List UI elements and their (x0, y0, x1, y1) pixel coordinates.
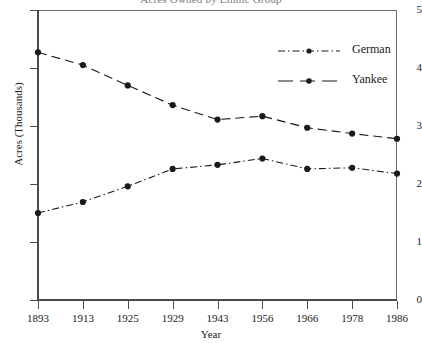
x-tick (262, 301, 263, 309)
y-tick-label: 3 (396, 120, 422, 131)
legend-line-sample-yankee (278, 74, 340, 88)
x-tick (83, 301, 84, 309)
y-tick-label: 4 (396, 62, 422, 73)
x-tick (307, 301, 308, 309)
y-tick (30, 126, 38, 127)
chart-title: Acres Owned by Ethnic Group (0, 0, 422, 5)
x-tick-label: 1966 (283, 312, 331, 324)
x-tick-label: 1943 (194, 312, 242, 324)
x-tick (173, 301, 174, 309)
x-tick (352, 301, 353, 309)
x-tick-label: 1956 (238, 312, 286, 324)
y-tick (30, 184, 38, 185)
x-tick-label: 1986 (373, 312, 421, 324)
y-tick (30, 300, 38, 301)
chart-figure: Acres Owned by Ethnic Group 012345 Acres… (0, 0, 422, 343)
legend-item-german[interactable]: German (278, 38, 398, 68)
x-tick (38, 301, 39, 309)
x-tick-label: 1929 (149, 312, 197, 324)
legend-label-german: German (352, 42, 391, 56)
x-axis-title: Year (0, 328, 422, 340)
x-tick (218, 301, 219, 309)
x-tick-label: 1978 (328, 312, 376, 324)
chart-legend: German Yankee (278, 38, 398, 98)
y-tick-label: 2 (396, 178, 422, 189)
legend-line-sample-german (278, 44, 340, 58)
y-axis-title: Acres (Thousands) (12, 44, 24, 204)
x-tick-label: 1893 (14, 312, 62, 324)
legend-item-yankee[interactable]: Yankee (278, 68, 398, 98)
x-tick-label: 1925 (104, 312, 152, 324)
y-axis-line (37, 10, 39, 301)
x-tick-label: 1913 (59, 312, 107, 324)
legend-label-yankee: Yankee (352, 72, 387, 86)
y-tick (30, 10, 38, 11)
y-tick-label: 5 (396, 4, 422, 15)
y-tick-label: 0 (396, 294, 422, 305)
y-tick (30, 68, 38, 69)
y-tick (30, 242, 38, 243)
x-tick (397, 301, 398, 309)
y-tick-label: 1 (396, 236, 422, 247)
x-tick (128, 301, 129, 309)
